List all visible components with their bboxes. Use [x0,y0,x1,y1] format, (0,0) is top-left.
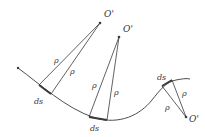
radius-line-2a [89,37,119,117]
center-label-3: O' [189,114,199,124]
curve-start-point [17,67,19,69]
center-point-1 [99,22,102,25]
center-point-2 [118,36,121,39]
ds-label-1: ds [34,97,43,106]
center-point-3 [185,116,188,119]
radius-line-2b [107,37,119,120]
rho-label-2a: ρ [91,81,97,90]
center-label-1: O' [104,9,114,19]
rho-label-1a: ρ [53,56,59,65]
curvature-diagram: O' ρ ρ ds O' ρ ρ ds O' ρ ρ ds [0,0,205,137]
ds-segment-2 [89,117,107,120]
ds-segment-1 [39,85,51,94]
center-label-2: O' [123,24,133,34]
rho-label-3a: ρ [164,103,170,112]
rho-label-2b: ρ [113,88,119,97]
ds-label-2: ds [90,124,99,133]
ds-label-3: ds [157,73,166,82]
rho-label-1b: ρ [69,67,75,76]
radius-line-3b [172,80,186,117]
rho-label-3b: ρ [181,89,187,98]
